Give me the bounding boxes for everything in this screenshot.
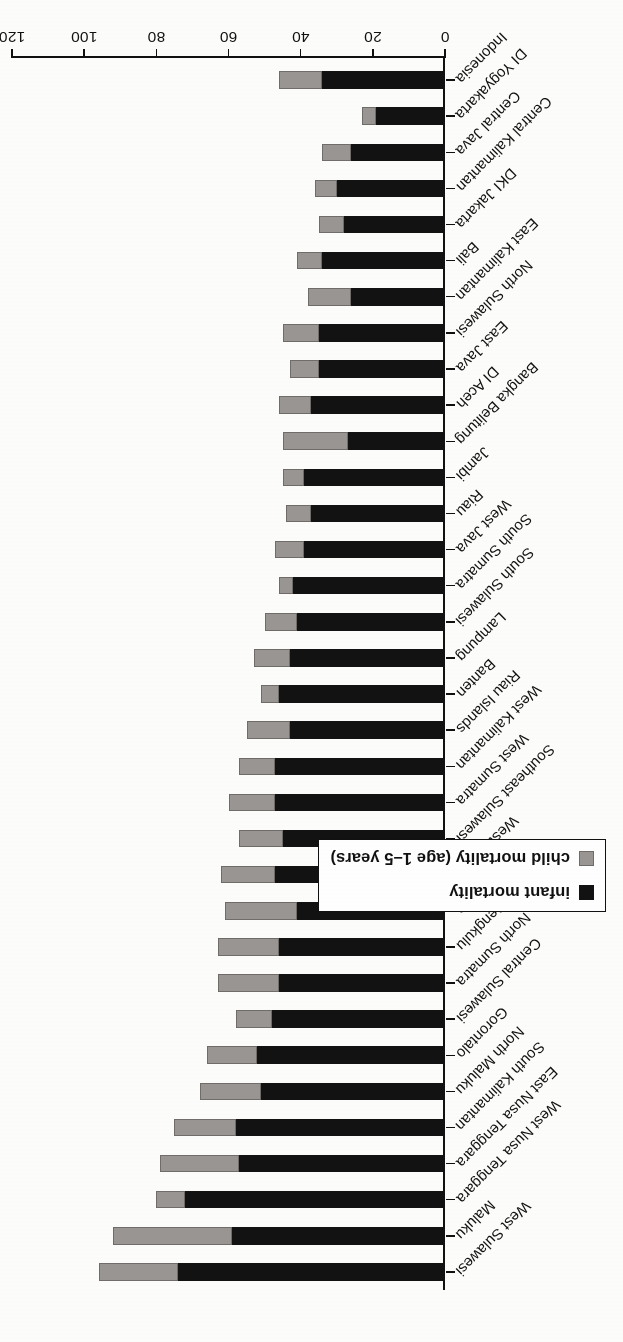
bar-row	[315, 180, 445, 198]
bar-segment-child-mortality	[221, 866, 275, 884]
bar-segment-child-mortality	[254, 649, 290, 667]
bar-segment-infant-mortality	[279, 974, 445, 992]
category-tick	[446, 477, 455, 478]
category-tick	[446, 1091, 455, 1092]
legend-item-infant-mortality: infant mortality	[330, 883, 594, 902]
bar-segment-child-mortality	[174, 1119, 235, 1137]
black-square-icon	[579, 885, 594, 900]
bar-row	[362, 107, 445, 125]
category-tick	[446, 188, 455, 189]
category-tick	[446, 1271, 455, 1272]
bar-segment-infant-mortality	[319, 324, 445, 342]
bar-segment-infant-mortality	[312, 505, 446, 523]
category-tick	[446, 982, 455, 983]
bar-segment-infant-mortality	[290, 721, 445, 739]
bar-segment-child-mortality	[229, 794, 276, 812]
category-tick	[446, 657, 455, 658]
bar-row	[322, 144, 445, 162]
value-tick	[372, 49, 373, 58]
bar-row	[283, 433, 445, 451]
bar-row	[279, 577, 445, 595]
bar-segment-infant-mortality	[337, 180, 445, 198]
bar-segment-child-mortality	[290, 360, 319, 378]
bar-segment-child-mortality	[319, 216, 344, 234]
bar-row	[265, 613, 445, 631]
bar-row	[283, 469, 445, 487]
bar-segment-child-mortality	[239, 758, 275, 776]
value-tick	[83, 49, 84, 58]
category-tick	[446, 332, 455, 333]
bar-segment-child-mortality	[225, 902, 297, 920]
bar-row	[279, 396, 445, 414]
bar-segment-child-mortality	[207, 1047, 258, 1065]
bar-segment-child-mortality	[239, 830, 282, 848]
legend-label-child-mortality: child mortality (age 1–5 years)	[330, 849, 570, 868]
category-tick	[446, 693, 455, 694]
value-tick-label: 0	[425, 28, 465, 46]
bar-segment-infant-mortality	[290, 649, 445, 667]
bar-segment-child-mortality	[200, 1083, 261, 1101]
bar-segment-child-mortality	[362, 107, 376, 125]
bar-segment-child-mortality	[279, 577, 293, 595]
value-axis-title: deaths per 1,000 live births	[0, 0, 445, 2]
bar-segment-child-mortality	[279, 396, 311, 414]
bar-segment-child-mortality	[322, 144, 351, 162]
bar-segment-infant-mortality	[348, 433, 445, 451]
bar-segment-infant-mortality	[261, 1083, 445, 1101]
category-tick	[446, 260, 455, 261]
value-tick-label: 80	[136, 28, 176, 46]
bar-row	[174, 1119, 445, 1137]
category-tick	[446, 585, 455, 586]
bar-chart: IndonesiaDI YogyakartaCentral JavaCentra…	[0, 0, 623, 1342]
bar-segment-infant-mortality	[279, 685, 445, 703]
gray-square-icon	[579, 851, 594, 866]
bar-segment-infant-mortality	[178, 1263, 445, 1281]
category-tick	[446, 296, 455, 297]
rotated-figure: IndonesiaDI YogyakartaCentral JavaCentra…	[0, 0, 623, 1342]
bar-segment-infant-mortality	[322, 252, 445, 270]
bar-row	[239, 758, 445, 776]
bar-row	[160, 1155, 445, 1173]
bar-row	[113, 1227, 445, 1245]
bar-segment-child-mortality	[279, 71, 322, 89]
category-tick	[446, 1055, 455, 1056]
value-tick	[11, 49, 12, 58]
bar-segment-child-mortality	[99, 1263, 178, 1281]
category-tick	[446, 1018, 455, 1019]
value-tick	[156, 49, 157, 58]
bar-segment-infant-mortality	[185, 1191, 445, 1209]
bar-segment-infant-mortality	[236, 1119, 445, 1137]
category-tick	[446, 152, 455, 153]
category-tick	[446, 116, 455, 117]
bar-segment-child-mortality	[308, 288, 351, 306]
category-tick	[446, 802, 455, 803]
bar-segment-infant-mortality	[297, 613, 445, 631]
bar-segment-infant-mortality	[351, 288, 445, 306]
bar-segment-child-mortality	[218, 974, 279, 992]
value-tick-label: 120	[0, 28, 32, 46]
chart-legend: infant mortality child mortality (age 1–…	[318, 839, 606, 912]
bar-segment-infant-mortality	[312, 396, 446, 414]
bar-segment-child-mortality	[283, 433, 348, 451]
value-tick-label: 60	[209, 28, 249, 46]
bar-row	[99, 1263, 445, 1281]
category-tick	[446, 513, 455, 514]
bar-row	[319, 216, 445, 234]
category-tick	[446, 730, 455, 731]
bar-segment-child-mortality	[275, 541, 304, 559]
bar-row	[236, 1010, 445, 1028]
category-tick	[446, 946, 455, 947]
bar-row	[247, 721, 445, 739]
bar-segment-child-mortality	[218, 938, 279, 956]
bar-segment-child-mortality	[283, 469, 305, 487]
bar-segment-infant-mortality	[304, 469, 445, 487]
bar-segment-child-mortality	[156, 1191, 185, 1209]
category-axis-line	[443, 58, 445, 1290]
bar-segment-infant-mortality	[304, 541, 445, 559]
category-tick	[446, 766, 455, 767]
bar-segment-infant-mortality	[319, 360, 445, 378]
bar-segment-infant-mortality	[351, 144, 445, 162]
bar-row	[218, 938, 445, 956]
bar-segment-infant-mortality	[239, 1155, 445, 1173]
category-tick	[446, 1235, 455, 1236]
